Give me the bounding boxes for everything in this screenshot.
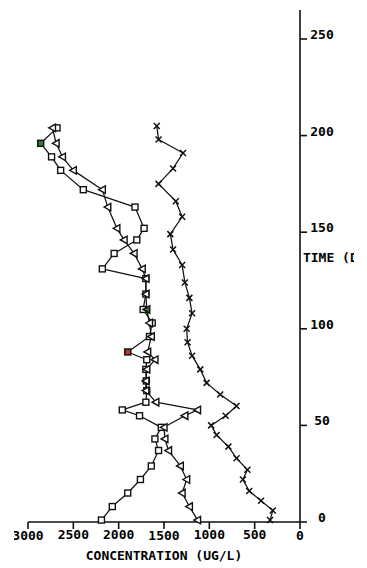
y-tick-label: 0: [296, 527, 304, 542]
marker-square: [124, 348, 130, 354]
marker-x: [153, 122, 159, 128]
marker-square: [37, 140, 43, 146]
marker-x: [167, 231, 173, 237]
marker-x: [170, 165, 176, 171]
marker-square: [111, 250, 117, 256]
y-tick-label: 3000: [14, 527, 44, 542]
marker-x: [172, 198, 178, 204]
marker-triangle: [185, 502, 192, 510]
marker-x: [203, 379, 209, 385]
marker-triangle: [161, 435, 168, 442]
marker-square: [151, 435, 157, 441]
marker-square: [80, 186, 86, 192]
marker-square: [98, 517, 104, 523]
marker-square: [142, 399, 148, 405]
marker-x: [225, 443, 231, 449]
y-tick-label: 2000: [103, 527, 134, 542]
x-tick-label: 50: [314, 413, 330, 428]
y-tick-label: 2500: [57, 527, 88, 542]
x-tick-label: 200: [310, 123, 334, 138]
marker-square: [48, 153, 54, 159]
marker-x: [155, 180, 161, 186]
series-line: [40, 127, 161, 519]
line-chart-svg: 050100150200250TIME (DAYS)05001000150020…: [14, 0, 354, 568]
y-axis-title: CONCENTRATION (UG/L): [85, 547, 242, 562]
marker-triangle: [138, 265, 145, 273]
marker-square: [131, 204, 137, 210]
x-tick-label: 0: [318, 510, 326, 525]
y-tick-label: 1000: [193, 527, 224, 542]
marker-triangle: [120, 236, 127, 244]
y-axis-ticks: 050010001500200025003000: [14, 522, 304, 543]
marker-square: [133, 236, 139, 242]
marker-square: [109, 503, 115, 509]
marker-square: [143, 356, 149, 362]
marker-triangle: [98, 185, 105, 193]
marker-square: [119, 406, 125, 412]
axes: [28, 10, 300, 522]
marker-triangle: [130, 249, 137, 257]
marker-x: [197, 366, 203, 372]
marker-x: [239, 476, 245, 482]
marker-x: [217, 391, 223, 397]
series-square: [37, 124, 164, 522]
x-axis-ticks: 050100150200250: [300, 26, 334, 524]
figure-page: 050100150200250TIME (DAYS)05001000150020…: [0, 0, 367, 568]
marker-x: [179, 262, 185, 268]
marker-x: [222, 412, 228, 418]
x-tick-label: 150: [310, 220, 334, 235]
marker-square: [141, 225, 147, 231]
chart-canvas: 050100150200250TIME (DAYS)05001000150020…: [14, 0, 354, 568]
series-x: [153, 122, 275, 522]
marker-x: [233, 403, 239, 409]
x-tick-label: 250: [310, 26, 334, 41]
rotated-figure: 050100150200250TIME (DAYS)05001000150020…: [0, 0, 367, 568]
marker-x: [233, 455, 239, 461]
marker-square: [155, 447, 161, 453]
marker-square: [148, 462, 154, 468]
series-line: [156, 125, 272, 519]
marker-square: [124, 490, 130, 496]
marker-square: [57, 167, 63, 173]
marker-x: [258, 497, 264, 503]
marker-x: [213, 432, 219, 438]
y-tick-label: 1500: [148, 527, 179, 542]
marker-square: [137, 476, 143, 482]
y-tick-label: 500: [242, 527, 266, 542]
x-axis-title: TIME (DAYS): [302, 250, 353, 265]
series-line: [52, 127, 197, 519]
marker-triangle: [143, 348, 150, 356]
x-tick-label: 100: [310, 316, 334, 331]
marker-triangle: [176, 462, 183, 470]
series-triangle: [48, 124, 200, 524]
marker-square: [136, 412, 142, 418]
marker-triangle: [178, 489, 185, 497]
marker-triangle: [48, 124, 55, 132]
marker-square: [99, 265, 105, 271]
axis-lines: [28, 10, 300, 522]
marker-x: [246, 488, 252, 494]
